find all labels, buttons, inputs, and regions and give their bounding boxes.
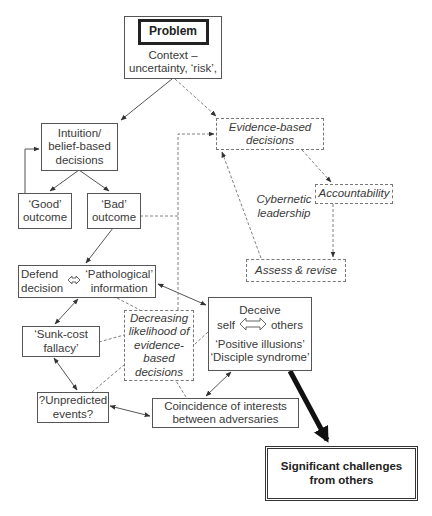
deceive-title: Deceive bbox=[239, 304, 281, 318]
arrow-problem-to-intuition bbox=[121, 79, 172, 120]
assess-revise-node: Assess & revise bbox=[246, 259, 346, 282]
pathological-line1: ‘Pathological’ bbox=[85, 268, 153, 282]
dashed-problem-to-evidence bbox=[175, 79, 216, 116]
cybernetic-line1: Cybernetic bbox=[252, 193, 316, 207]
unpredicted-events-node: ?Unpredicted events? bbox=[37, 392, 109, 423]
decreasing-line2: likelihood of bbox=[129, 325, 190, 339]
decreasing-line3: evidence- bbox=[134, 339, 184, 353]
dashed-defend-decreasing bbox=[117, 298, 140, 310]
coincidence-line2: between adversaries bbox=[172, 413, 278, 427]
bad-line2: outcome bbox=[92, 211, 136, 225]
arrow-coincidence-deceive bbox=[206, 372, 231, 396]
deceive-disciple-syndrome: ‘Disciple syndrome’ bbox=[210, 351, 309, 365]
decreasing-likelihood-node: Decreasing likelihood of evidence- based… bbox=[124, 310, 194, 381]
bad-line1: ‘Bad’ bbox=[101, 198, 127, 212]
good-line1: ‘Good’ bbox=[28, 198, 61, 212]
defend-left: Defend decision bbox=[21, 268, 63, 295]
dashed-sunk-decreasing bbox=[99, 335, 124, 342]
intuition-node: Intuition/ belief-based decisions bbox=[41, 123, 118, 171]
decreasing-line4: based bbox=[143, 352, 174, 366]
deceive-self: self bbox=[217, 319, 235, 333]
problem-context-line2: uncertainty, ‘risk’, bbox=[129, 62, 217, 76]
evidence-line1: Evidence-based bbox=[229, 121, 311, 135]
arrow-unpredicted-coincidence bbox=[110, 406, 150, 416]
sunk-cost-node: ‘Sunk-cost fallacy’ bbox=[22, 326, 100, 357]
intuition-line1: Intuition/ bbox=[58, 127, 101, 141]
deceive-others: others bbox=[271, 319, 303, 333]
deceive-self-others-row: self others bbox=[217, 317, 303, 335]
intuition-line3: decisions bbox=[56, 154, 104, 168]
cybernetic-leadership-label: Cybernetic leadership bbox=[252, 193, 316, 220]
defend-pathological-node: Defend decision ‘Pathological’ informati… bbox=[18, 265, 156, 298]
double-arrow-icon bbox=[239, 317, 267, 335]
decreasing-line5: decisions bbox=[135, 366, 183, 380]
problem-node: Problem Context – uncertainty, ‘risk’, bbox=[124, 16, 222, 79]
evidence-line2: decisions bbox=[246, 134, 294, 148]
coincidence-node: Coincidence of interests between adversa… bbox=[152, 398, 299, 428]
arrow-sunk-unpredicted bbox=[54, 358, 77, 390]
problem-context-line1: Context – bbox=[148, 49, 197, 63]
double-arrow-icon bbox=[67, 273, 81, 291]
arrow-defend-deceive bbox=[158, 284, 206, 305]
dashed-deceive-decreasing bbox=[194, 332, 208, 345]
coincidence-line1: Coincidence of interests bbox=[164, 400, 287, 414]
arrow-good-to-intuition bbox=[25, 149, 39, 193]
accountability-label: Accountability bbox=[319, 187, 390, 201]
dashed-unpredicted-decreasing bbox=[92, 365, 124, 392]
good-outcome-node: ‘Good’ outcome bbox=[18, 193, 72, 229]
deceive-positive-illusions: ‘Positive illusions’ bbox=[215, 338, 304, 352]
defend-line2: decision bbox=[21, 282, 63, 296]
unpredicted-line2: events? bbox=[53, 408, 93, 422]
deceive-node: Deceive self others ‘Positive illusions’… bbox=[208, 297, 312, 371]
intuition-line2: belief-based bbox=[48, 140, 111, 154]
problem-title: Problem bbox=[138, 19, 209, 45]
arrow-intuition-to-bad bbox=[79, 170, 109, 191]
arrow-bad-to-defend bbox=[86, 228, 113, 263]
cybernetic-line2: leadership bbox=[252, 207, 316, 221]
unpredicted-line1: ?Unpredicted bbox=[39, 394, 107, 408]
dashed-decreasing-to-evidence bbox=[178, 134, 214, 310]
significant-line2: from others bbox=[310, 474, 374, 488]
sunk-line1: ‘Sunk-cost bbox=[34, 328, 88, 342]
defend-line1: Defend bbox=[21, 268, 63, 282]
decreasing-line1: Decreasing bbox=[130, 312, 188, 326]
arrow-defend-sunk bbox=[55, 299, 78, 324]
pathological-right: ‘Pathological’ information bbox=[85, 268, 153, 295]
good-line2: outcome bbox=[23, 211, 67, 225]
evidence-based-node: Evidence-based decisions bbox=[216, 118, 324, 150]
significant-challenges-node: Significant challenges from others bbox=[265, 446, 418, 501]
assess-label: Assess & revise bbox=[255, 264, 337, 278]
bad-outcome-node: ‘Bad’ outcome bbox=[87, 193, 141, 229]
dashed-evidence-to-accountability bbox=[302, 150, 331, 182]
dashed-coincidence-decreasing bbox=[176, 381, 186, 397]
sunk-line2: fallacy’ bbox=[43, 342, 78, 356]
arrow-intuition-to-good bbox=[50, 170, 79, 191]
accountability-node: Accountability bbox=[315, 184, 393, 204]
significant-line1: Significant challenges bbox=[281, 460, 402, 474]
pathological-line2: information bbox=[85, 282, 153, 296]
